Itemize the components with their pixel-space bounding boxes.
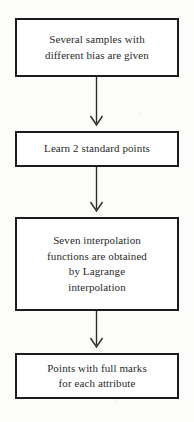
node-text-line: Points with full marks bbox=[47, 361, 147, 377]
node-text-line: functions are obtained bbox=[47, 249, 147, 265]
connector-arrow-node2-node3 bbox=[0, 167, 194, 217]
flowchart-node-interpolation-functions[interactable]: Seven interpolation functions are obtain… bbox=[15, 217, 179, 311]
node-text-line: Several samples with bbox=[49, 32, 144, 48]
connector-arrow-node1-node2 bbox=[0, 77, 194, 131]
flowchart-node-points-full-marks[interactable]: Points with full marks for each attribut… bbox=[15, 353, 179, 399]
node-text-line: Seven interpolation bbox=[53, 233, 141, 249]
node-text-line: for each attribute bbox=[59, 376, 136, 392]
connector-arrow-node3-node4 bbox=[0, 311, 194, 353]
flowchart-node-samples-given[interactable]: Several samples with different bias are … bbox=[15, 18, 179, 77]
flowchart-canvas: Several samples with different bias are … bbox=[0, 0, 194, 422]
node-text-line: interpolation bbox=[68, 280, 126, 296]
node-text-line: Learn 2 standard points bbox=[44, 141, 150, 157]
flowchart-node-learn-standard-points[interactable]: Learn 2 standard points bbox=[15, 131, 179, 167]
node-text-line: different bias are given bbox=[45, 48, 149, 64]
node-text-line: by Lagrange bbox=[69, 264, 125, 280]
